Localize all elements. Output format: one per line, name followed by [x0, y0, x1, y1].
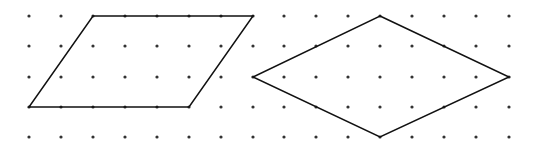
grid-dot — [123, 44, 126, 47]
grid-dot — [410, 105, 413, 108]
grid-dots — [27, 14, 510, 138]
grid-dot — [27, 135, 30, 138]
grid-dot — [59, 135, 62, 138]
grid-dot — [410, 75, 413, 78]
grid-dot — [251, 44, 254, 47]
grid-dot — [378, 105, 381, 108]
grid-dot — [410, 14, 413, 17]
grid-dot — [219, 105, 222, 108]
grid-dot — [346, 14, 349, 17]
grid-dot — [219, 75, 222, 78]
grid-dot — [59, 44, 62, 47]
grid-dot — [474, 75, 477, 78]
grid-dot — [346, 135, 349, 138]
grid-dot — [91, 44, 94, 47]
grid-dot — [378, 75, 381, 78]
grid-dot — [155, 135, 158, 138]
grid-dot — [410, 135, 413, 138]
grid-dot — [474, 105, 477, 108]
grid-dot — [410, 44, 413, 47]
grid-dot — [251, 135, 254, 138]
grid-dot — [91, 75, 94, 78]
grid-dot — [507, 105, 510, 108]
grid-dot — [314, 75, 317, 78]
grid-dot — [27, 75, 30, 78]
grid-dot — [219, 44, 222, 47]
grid-dot — [442, 135, 445, 138]
grid-dot — [346, 75, 349, 78]
grid-dot — [346, 105, 349, 108]
grid-dot — [123, 135, 126, 138]
grid-dot — [27, 44, 30, 47]
grid-dot — [187, 75, 190, 78]
grid-dot — [282, 44, 285, 47]
grid-dot — [155, 75, 158, 78]
grid-dot — [507, 44, 510, 47]
grid-dot — [442, 75, 445, 78]
grid-dot — [282, 105, 285, 108]
grid-dot — [282, 135, 285, 138]
grid-dot — [282, 14, 285, 17]
grid-dot — [219, 135, 222, 138]
grid-dot — [123, 75, 126, 78]
grid-dot — [442, 14, 445, 17]
grid-dot — [507, 135, 510, 138]
grid-dot — [314, 14, 317, 17]
grid-dot — [474, 135, 477, 138]
grid-dot — [378, 44, 381, 47]
grid-dot — [507, 14, 510, 17]
dot-grid-diagram — [0, 0, 536, 144]
parallelogram-shape — [29, 16, 253, 107]
grid-dot — [187, 44, 190, 47]
grid-dot — [155, 44, 158, 47]
shapes-layer — [29, 16, 509, 137]
grid-dot — [474, 44, 477, 47]
grid-dot — [59, 75, 62, 78]
grid-dot — [474, 14, 477, 17]
grid-dot — [282, 75, 285, 78]
grid-dot — [346, 44, 349, 47]
grid-dot — [314, 135, 317, 138]
grid-dot — [91, 135, 94, 138]
grid-dot — [251, 105, 254, 108]
grid-dot — [187, 135, 190, 138]
grid-dot — [27, 14, 30, 17]
grid-dot — [59, 14, 62, 17]
